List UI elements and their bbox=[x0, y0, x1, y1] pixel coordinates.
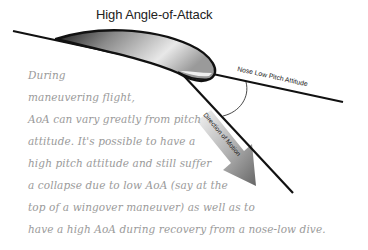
explanation-text: During maneuvering flight, AoA can vary … bbox=[28, 64, 368, 240]
explanation-line: high pitch attitude and still suffer bbox=[28, 152, 368, 174]
explanation-line: have a high AoA during recovery from a n… bbox=[28, 218, 368, 240]
explanation-line: attitude. It's possible to have a bbox=[28, 130, 368, 152]
explanation-line: maneuvering flight, bbox=[28, 86, 368, 108]
explanation-line: AoA can vary greatly from pitch bbox=[28, 108, 368, 130]
explanation-line: During bbox=[28, 64, 368, 86]
explanation-line: top of a wingover maneuver) as well as t… bbox=[28, 196, 368, 218]
diagram-title: High Angle-of-Attack bbox=[96, 7, 213, 22]
explanation-line: a collapse due to low AoA (say at the bbox=[28, 174, 368, 196]
